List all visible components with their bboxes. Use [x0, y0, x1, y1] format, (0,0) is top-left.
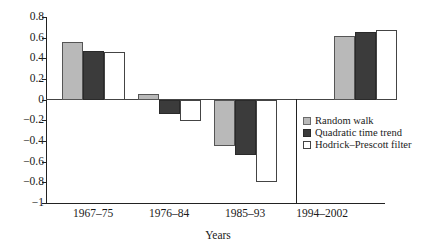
x-tick-label-1994-2002: 1994–2002: [296, 207, 348, 219]
legend-item-random-walk: Random walk: [303, 115, 412, 127]
x-tick-label-1976-84: 1976–84: [149, 207, 189, 219]
bar-random-walk-1994-2002: [334, 36, 355, 100]
y-tick-label: −0.8: [8, 177, 44, 189]
x-axis-title: Years: [0, 229, 436, 241]
bar-hodrick-prescott-1994-2002: [376, 30, 397, 100]
legend-swatch-hodrick-prescott-icon: [303, 141, 311, 149]
chart-legend: Random walk Quadratic time trend Hodrick…: [303, 115, 412, 152]
y-tick-label: −0.4: [8, 135, 44, 147]
bar-chart-figure: 0.8 0.6 0.4 0.2 0 −0.2 −0.4 −0.6 −0.8 −1…: [0, 0, 436, 252]
bar-hodrick-prescott-1967-75: [104, 52, 125, 100]
y-tick-label: 0.8: [8, 11, 44, 23]
bar-hodrick-prescott-1985-93: [256, 100, 277, 182]
bar-hodrick-prescott-1976-84: [180, 100, 201, 121]
legend-item-hodrick-prescott-filter: Hodrick–Prescott filter: [303, 139, 412, 151]
bar-quadratic-time-trend-1985-93: [235, 100, 256, 155]
y-tick-label: 0.2: [8, 73, 44, 85]
legend-label-hodrick-prescott-filter: Hodrick–Prescott filter: [315, 139, 412, 151]
y-tick-label: 0.6: [8, 32, 44, 44]
legend-item-quadratic-time-trend: Quadratic time trend: [303, 127, 412, 139]
x-tick-label-1967-75: 1967–75: [73, 207, 113, 219]
legend-label-random-walk: Random walk: [315, 115, 374, 127]
y-tick-label: −0.2: [8, 115, 44, 127]
y-tick-label: 0: [8, 94, 44, 106]
plot-right-edge-line: [296, 99, 297, 204]
y-axis-tick-labels: 0.8 0.6 0.4 0.2 0 −0.2 −0.4 −0.6 −0.8 −1: [4, 0, 44, 252]
y-tick-label: −1: [8, 197, 44, 209]
bar-quadratic-time-trend-1976-84: [159, 100, 180, 114]
bar-random-walk-1985-93: [214, 100, 235, 146]
bar-quadratic-time-trend-1967-75: [83, 51, 104, 100]
y-tick-label: 0.4: [8, 53, 44, 65]
bar-quadratic-time-trend-1994-2002: [355, 32, 376, 100]
x-tick-label-1985-93: 1985–93: [225, 207, 265, 219]
y-tick-label: −0.6: [8, 156, 44, 168]
y-axis-line: [46, 17, 47, 204]
legend-swatch-quadratic-time-trend-icon: [303, 129, 311, 137]
legend-swatch-random-walk-icon: [303, 117, 311, 125]
legend-label-quadratic-time-trend: Quadratic time trend: [315, 127, 402, 139]
bar-random-walk-1976-84: [138, 94, 159, 100]
x-axis-line: [46, 203, 385, 204]
bar-random-walk-1967-75: [62, 42, 83, 100]
